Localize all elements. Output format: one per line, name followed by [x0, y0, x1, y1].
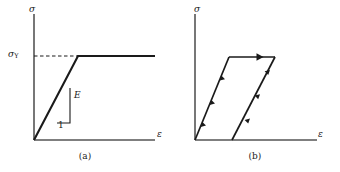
panel-b: σ ε (b)	[170, 0, 340, 172]
loading-path-b	[195, 57, 229, 140]
x-axis-label-b: ε	[318, 130, 323, 139]
y-axis-label-b: σ	[194, 5, 200, 14]
panel-b-plot	[170, 0, 340, 172]
yield-stress-subscript: Y	[14, 52, 18, 60]
panel-a: σ ε σY E 1 (a)	[0, 0, 170, 172]
caption-a: (a)	[0, 152, 170, 161]
yield-stress-tick-label: σY	[8, 50, 18, 59]
plastic-flow-arrowhead-b	[257, 53, 264, 61]
panel-a-plot	[0, 0, 170, 172]
stress-strain-curve-a	[34, 56, 155, 140]
figure-container: σ ε σY E 1 (a)	[0, 0, 340, 172]
caption-b: (b)	[170, 152, 340, 161]
unloading-arrowheads-b	[245, 70, 270, 124]
x-axis-label-a: ε	[157, 130, 162, 139]
unloading-path-b	[232, 57, 275, 140]
modulus-label: E	[74, 91, 81, 100]
y-axis-label-a: σ	[29, 5, 35, 14]
unit-run-label: 1	[58, 121, 64, 130]
